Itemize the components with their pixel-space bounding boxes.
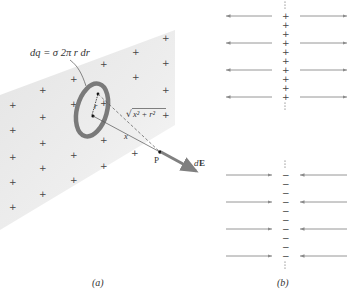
continuation-dot	[284, 1, 285, 2]
continuation-dot	[284, 163, 285, 164]
charged-plane	[0, 30, 175, 230]
plus-charge: +	[9, 100, 17, 110]
plus-charge: +	[70, 175, 78, 185]
plus-charge: +	[39, 85, 47, 95]
minus-charge: −	[282, 251, 290, 261]
panel-a: +++++++++++++++++++++++++ dq = σ 2π r dr…	[0, 30, 205, 289]
plus-charge: +	[9, 202, 17, 212]
plus-charge: +	[162, 58, 170, 68]
positive-sheet: ++++++++++	[282, 1, 290, 109]
plus-charge: +	[132, 47, 140, 57]
plus-charge: +	[162, 85, 170, 95]
continuation-dot	[284, 105, 285, 106]
plus-charge: +	[39, 163, 47, 173]
plus-charge: +	[70, 150, 78, 160]
continuation-dot	[284, 7, 285, 8]
field-label: d E	[194, 158, 205, 168]
panel-b: ++++++++++ −−−−−−−−−− (b)	[226, 1, 347, 289]
continuation-dot	[284, 261, 285, 262]
continuation-dot	[284, 108, 285, 109]
plus-charge: +	[162, 110, 170, 120]
distance-label: x	[123, 131, 128, 141]
plus-charge: +	[9, 125, 17, 135]
negative-sheet: −−−−−−−−−−	[282, 160, 290, 268]
charge-element-label: dq = σ 2π r dr	[30, 47, 91, 58]
plus-charge: +	[162, 33, 170, 43]
field-vector-dE	[161, 152, 196, 171]
continuation-dot	[284, 160, 285, 161]
continuation-dot	[284, 102, 285, 103]
plus-charge: +	[100, 59, 108, 69]
plus-charge: +	[9, 177, 17, 187]
plus-charge: +	[132, 72, 140, 82]
plus-charge: +	[39, 112, 47, 122]
figure: +++++++++++++++++++++++++ dq = σ 2π r dr…	[0, 0, 353, 295]
continuation-dot	[284, 166, 285, 167]
plus-charge: +	[282, 92, 290, 102]
caption-a: (a)	[92, 277, 104, 289]
point-p-label: P	[154, 155, 159, 165]
sqrt-body: x² + r²	[132, 109, 156, 119]
continuation-dot	[284, 267, 285, 268]
continuation-dot	[284, 264, 285, 265]
plus-charge: +	[39, 138, 47, 148]
plus-charge: +	[100, 161, 108, 171]
plus-charge: +	[70, 74, 78, 84]
caption-b: (b)	[277, 277, 289, 289]
sqrt-sign: √	[126, 109, 132, 119]
plus-charge: +	[100, 135, 108, 145]
plus-charge: +	[9, 152, 17, 162]
plus-charge: +	[39, 189, 47, 199]
field-label-E: E	[199, 158, 205, 168]
plus-charge: +	[131, 148, 139, 158]
continuation-dot	[284, 4, 285, 5]
